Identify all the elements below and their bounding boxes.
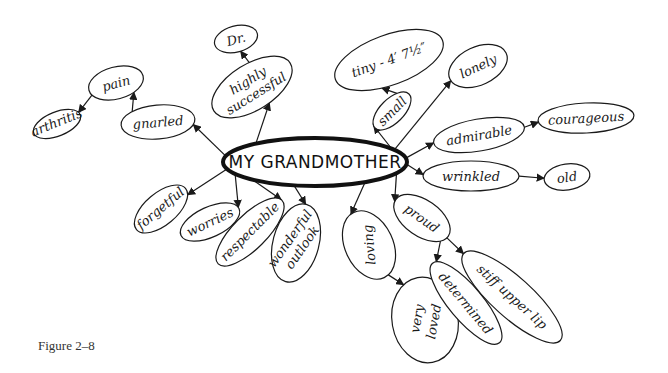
node-pain: pain — [85, 60, 147, 105]
node-old: old — [542, 161, 591, 193]
mind-map-canvas: gnarledpainarthritishighlysuccessfulDr.s… — [0, 0, 668, 373]
central-topic-node: MY GRANDMOTHER — [223, 138, 407, 186]
node-gnarled: gnarled — [120, 102, 197, 142]
arrow-highly-successful-to-dr — [241, 51, 249, 62]
arrow-center-to-worries — [235, 174, 238, 207]
node-wrinkled: wrinkled — [423, 161, 519, 191]
arrow-wrinkled-to-old — [519, 176, 544, 178]
arrow-gnarled-to-pain — [132, 92, 134, 111]
node-highly-successful: highlysuccessful — [202, 44, 303, 131]
arrow-center-to-gnarled — [193, 125, 226, 157]
arrow-admirable-to-courageous — [524, 122, 538, 127]
node-admirable: admirable — [431, 111, 527, 158]
node-label: old — [556, 169, 578, 187]
node-arthritis: arthritis — [27, 103, 86, 146]
node-courageous: courageous — [537, 101, 634, 136]
arrow-center-to-wrinkled — [407, 164, 424, 175]
node-dr: Dr. — [211, 21, 260, 58]
arrow-proud-to-stiff-upper-lip — [447, 238, 464, 254]
arrow-center-to-loving — [351, 182, 365, 214]
central-topic-label: MY GRANDMOTHER — [229, 152, 402, 172]
node-small: small — [367, 86, 418, 137]
concept-nodes: gnarledpainarthritishighlysuccessfulDr.s… — [27, 17, 634, 368]
node-lonely: lonely — [442, 36, 514, 97]
arrow-center-to-admirable — [406, 143, 434, 158]
node-loving: loving — [332, 202, 406, 288]
arrow-center-to-forgetful — [188, 169, 227, 195]
arrow-small-to-tiny — [382, 88, 397, 93]
node-label: wrinkled — [442, 169, 500, 184]
arrow-center-to-proud — [395, 173, 397, 202]
arrow-loving-to-very-loved — [388, 275, 403, 285]
node-proud: proud — [385, 185, 458, 251]
arrow-center-to-wonderful-outlook — [294, 185, 306, 204]
arrow-proud-to-determined — [436, 241, 440, 262]
arrow-pain-to-arthritis — [79, 95, 92, 112]
figure-caption: Figure 2–8 — [38, 338, 95, 354]
